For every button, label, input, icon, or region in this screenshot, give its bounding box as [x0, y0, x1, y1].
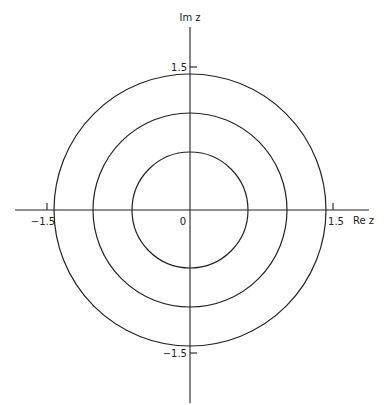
- origin-label: 0: [180, 216, 186, 227]
- tick-label-x-neg: −1.5: [31, 216, 55, 227]
- complex-plane-diagram: Im z Re z 0 −1.5 1.5 1.5 −1.5: [0, 0, 386, 405]
- x-axis-label: Re z: [353, 215, 374, 226]
- tick-label-y-pos: 1.5: [171, 62, 187, 73]
- y-axis-label: Im z: [179, 12, 200, 23]
- tick-label-x-pos: 1.5: [328, 216, 344, 227]
- tick-label-y-neg: −1.5: [163, 348, 187, 359]
